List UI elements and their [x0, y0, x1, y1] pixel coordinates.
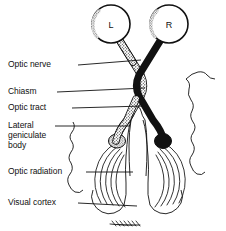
leader-chiasm: [57, 88, 145, 92]
right-lateral-geniculate-body: [155, 134, 172, 149]
label-visual-cortex: Visual cortex: [8, 198, 56, 208]
left-hemisphere-border: [68, 122, 83, 193]
right-eye: R: [150, 5, 188, 43]
right-hemisphere-border: [186, 79, 205, 175]
optic-radiation-left-fan: [95, 143, 125, 207]
leader-visual-cortex: [78, 203, 137, 206]
left-eye: L: [92, 5, 130, 43]
right-eye-optic-pathway: [137, 41, 172, 149]
optic-radiation-right-fan: [155, 143, 185, 207]
label-optic-tract: Optic tract: [8, 103, 46, 113]
label-chiasm: Chiasm: [8, 87, 37, 97]
visual-pathway-figure: L R Optic nerve Chiasm Optic tract Later…: [0, 0, 226, 231]
right-hemisphere-crest: [186, 72, 215, 79]
label-optic-nerve: Optic nerve: [8, 60, 51, 70]
left-eye-label: L: [108, 20, 113, 30]
right-eye-label: R: [166, 20, 173, 30]
visual-cortex-hatching: [110, 221, 140, 226]
label-optic-radiation: Optic radiation: [8, 167, 62, 177]
left-medial-wall: [124, 120, 131, 205]
label-body: body: [8, 141, 26, 151]
